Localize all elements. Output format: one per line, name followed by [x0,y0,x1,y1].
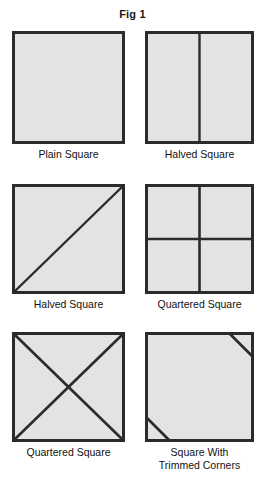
panel-label-quartered-square-cross: Quartered Square [145,298,254,311]
square-with-trimmed-corners-shape [145,332,254,442]
panel-square-with-trimmed-corners: Square With Trimmed Corners [145,332,254,442]
panel-plain-square: Plain Square [12,31,125,144]
quartered-square-diagonals-shape [12,332,125,442]
panel-label-halved-square-diagonal: Halved Square [12,298,125,311]
panel-label-square-with-trimmed-corners: Square With Trimmed Corners [145,446,254,472]
plain-square-shape [12,31,125,144]
halved-square-diagonal-shape [12,184,125,294]
panel-label-quartered-square-diagonals: Quartered Square [12,446,125,459]
halved-square-vertical-shape [145,31,254,144]
figure-container: Fig 1 Plain Square Halved Square Halved … [0,0,265,489]
figure-title: Fig 1 [0,8,265,20]
panel-label-plain-square: Plain Square [12,148,125,161]
panel-halved-square-vertical: Halved Square [145,31,254,144]
quartered-square-cross-shape [145,184,254,294]
panel-quartered-square-cross: Quartered Square [145,184,254,294]
panel-quartered-square-diagonals: Quartered Square [12,332,125,442]
panel-halved-square-diagonal: Halved Square [12,184,125,294]
panel-label-halved-square-vertical: Halved Square [145,148,254,161]
